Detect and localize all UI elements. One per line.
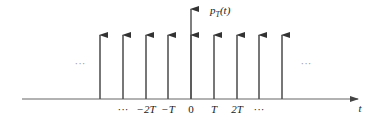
tick-label-minus-T: −T <box>161 104 175 115</box>
tick-label-T: T <box>211 104 217 115</box>
tick-label-zero: 0 <box>188 104 194 115</box>
right-ellipsis: ··· <box>301 58 312 69</box>
tick-label-ellipsis-left: ··· <box>118 104 129 115</box>
tick-label-2T: 2T <box>231 104 243 115</box>
left-ellipsis: ··· <box>75 58 86 69</box>
tick-label-minus-2T: −2T <box>136 104 155 115</box>
function-label: pT(t) <box>210 5 230 19</box>
x-axis-label: t <box>358 103 361 114</box>
impulses <box>100 35 282 99</box>
tick-label-ellipsis-right: ··· <box>254 104 265 115</box>
impulse-train-diagram <box>0 0 379 119</box>
